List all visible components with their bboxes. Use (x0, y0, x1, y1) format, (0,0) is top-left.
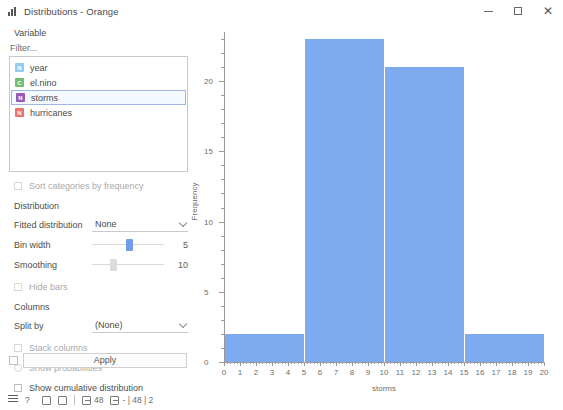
x-minor-tick (326, 362, 327, 364)
x-tick-label: 19 (524, 368, 533, 377)
x-tick-label: 15 (460, 368, 469, 377)
bin-width-row: Bin width 5 (0, 236, 196, 253)
x-minor-tick (346, 362, 347, 364)
x-tick (288, 362, 289, 366)
bin-width-slider[interactable]: 5 (92, 238, 188, 252)
x-minor-tick (474, 362, 475, 364)
sort-by-frequency-checkbox[interactable]: Sort categories by frequency (0, 179, 196, 192)
list-item[interactable]: N year (10, 60, 187, 75)
distribution-chart: 05101520 0123456789101112131415161718192… (196, 22, 563, 410)
x-minor-tick (330, 362, 331, 364)
x-minor-tick (362, 362, 363, 364)
x-minor-tick (413, 362, 414, 364)
x-minor-tick (282, 362, 283, 364)
x-minor-tick (506, 362, 507, 364)
list-item[interactable]: C el.nino (10, 75, 187, 90)
x-minor-tick (522, 362, 523, 364)
x-minor-tick (349, 362, 350, 364)
minimize-button[interactable] (473, 0, 503, 22)
x-minor-tick (358, 362, 359, 364)
x-tick (512, 362, 513, 366)
copy-icon[interactable] (42, 396, 51, 405)
checkbox-icon (14, 283, 22, 291)
numeric-variable-icon: N (15, 108, 24, 117)
x-tick (544, 362, 545, 366)
slider-handle[interactable] (126, 239, 133, 251)
distribution-section-label: Distribution (0, 192, 196, 213)
x-minor-tick (422, 362, 423, 364)
slider-handle[interactable] (110, 259, 117, 271)
histogram-bar[interactable] (385, 67, 465, 362)
x-minor-tick (314, 362, 315, 364)
x-minor-tick (371, 362, 372, 364)
list-item-selected[interactable]: N storms (11, 90, 186, 105)
x-tick-label: 17 (492, 368, 501, 377)
close-button[interactable]: ✕ (533, 0, 563, 22)
fitted-distribution-value: None (95, 219, 117, 229)
maximize-button[interactable] (503, 0, 533, 22)
hide-bars-checkbox[interactable]: Hide bars (0, 280, 196, 293)
hamburger-menu-icon[interactable] (8, 395, 18, 405)
x-minor-tick (429, 362, 430, 364)
output-summary[interactable]: - | 48 | 2 (110, 395, 153, 405)
x-tick-label: 12 (412, 368, 421, 377)
histogram-bar[interactable] (465, 334, 545, 362)
x-tick-label: 1 (238, 368, 242, 377)
split-by-select[interactable]: (None) (92, 319, 188, 333)
x-minor-tick (442, 362, 443, 364)
x-minor-tick (355, 362, 356, 364)
apply-row: Apply (0, 352, 196, 368)
smoothing-label: Smoothing (14, 260, 92, 270)
smoothing-slider[interactable]: 10 (92, 258, 188, 272)
output-arrow-icon (110, 396, 119, 405)
chevron-down-icon (179, 218, 187, 226)
x-tick (496, 362, 497, 366)
x-minor-tick (419, 362, 420, 364)
x-tick (224, 362, 225, 366)
histogram-bar[interactable] (225, 334, 305, 362)
x-minor-tick (250, 362, 251, 364)
histogram-bar[interactable] (305, 39, 385, 362)
window-titlebar: Distributions - Orange ✕ (0, 0, 563, 22)
x-minor-tick (445, 362, 446, 364)
x-minor-tick (317, 362, 318, 364)
x-tick-label: 13 (428, 368, 437, 377)
question-mark-icon[interactable]: ? (25, 395, 35, 405)
x-minor-tick (365, 362, 366, 364)
auto-apply-checkbox[interactable] (9, 356, 18, 365)
x-minor-tick (266, 362, 267, 364)
x-minor-tick (294, 362, 295, 364)
x-minor-tick (477, 362, 478, 364)
x-minor-tick (426, 362, 427, 364)
x-tick (336, 362, 337, 366)
x-minor-tick (278, 362, 279, 364)
x-tick-label: 20 (540, 368, 549, 377)
x-minor-tick (403, 362, 404, 364)
apply-area: Apply (0, 349, 196, 368)
x-minor-tick (301, 362, 302, 364)
variable-list[interactable]: N year C el.nino N storms N hurricanes (9, 56, 188, 172)
x-minor-tick (509, 362, 510, 364)
x-minor-tick (493, 362, 494, 364)
save-icon[interactable] (58, 396, 67, 405)
chevron-down-icon (179, 319, 187, 327)
input-summary[interactable]: 48 (82, 395, 103, 405)
x-tick-label: 18 (508, 368, 517, 377)
x-minor-tick (307, 362, 308, 364)
minimize-icon (484, 11, 493, 12)
x-tick (368, 362, 369, 366)
window-controls: ✕ (473, 0, 563, 22)
list-item[interactable]: N hurricanes (10, 105, 187, 120)
x-minor-tick (269, 362, 270, 364)
x-minor-tick (230, 362, 231, 364)
split-by-label: Split by (14, 321, 92, 331)
slider-track (92, 264, 164, 265)
filter-input[interactable]: Filter... (0, 41, 196, 56)
x-minor-tick (502, 362, 503, 364)
apply-button[interactable]: Apply (23, 353, 187, 368)
x-tick-label: 0 (222, 368, 226, 377)
hide-bars-label: Hide bars (29, 282, 68, 292)
checkbox-icon (14, 182, 22, 190)
fitted-distribution-select[interactable]: None (92, 218, 188, 232)
input-count: 48 (94, 395, 103, 405)
